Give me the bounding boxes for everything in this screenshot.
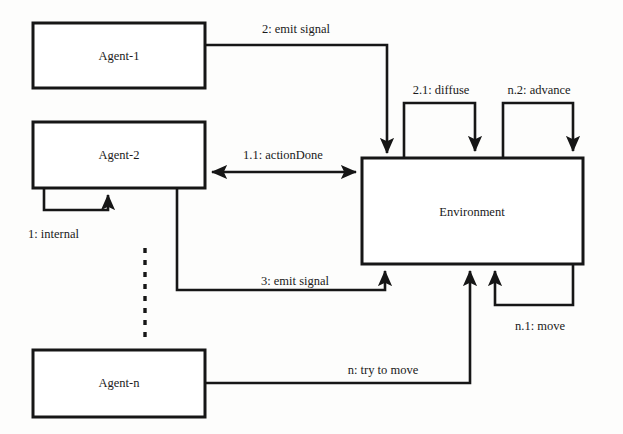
edge-label-diffuse: 2.1: diffuse xyxy=(413,83,470,97)
node-environment[interactable]: Environment xyxy=(362,158,583,264)
edge-action-done: 1.1: actionDone xyxy=(212,148,356,172)
edge-label-internal: 1: internal xyxy=(28,227,80,241)
uml-collaboration-diagram: 2: emit signal 1.1: actionDone 1: intern… xyxy=(0,0,623,434)
edge-emit-signal-2: 2: emit signal xyxy=(205,22,387,153)
node-environment-label: Environment xyxy=(439,205,505,219)
edge-try-to-move: n: try to move xyxy=(205,271,470,383)
node-agent-2[interactable]: Agent-2 xyxy=(33,122,205,188)
edge-label-action-done: 1.1: actionDone xyxy=(243,148,323,162)
edge-diffuse-self-loop-line xyxy=(404,103,475,158)
edge-advance-self-loop-line xyxy=(503,103,573,158)
edge-label-emit-signal-3: 3: emit signal xyxy=(261,274,330,288)
edge-try-to-move-line xyxy=(205,271,470,383)
node-agent-1-label: Agent-1 xyxy=(99,49,140,63)
edge-label-emit-signal-2: 2: emit signal xyxy=(262,22,331,36)
edge-internal-self-loop: 1: internal xyxy=(28,188,108,241)
edge-move-self-loop-line xyxy=(495,264,573,305)
edge-internal-self-loop-line xyxy=(44,188,108,210)
edge-emit-signal-2-line xyxy=(205,45,387,153)
edge-label-advance: n.2: advance xyxy=(507,83,571,97)
edge-label-move: n.1: move xyxy=(515,319,565,333)
edge-emit-signal-3: 3: emit signal xyxy=(177,188,385,290)
edge-move-self-loop: n.1: move xyxy=(495,264,573,333)
node-agent-2-label: Agent-2 xyxy=(99,148,140,162)
edge-advance-self-loop: n.2: advance xyxy=(503,83,573,158)
diagram-canvas: 2: emit signal 1.1: actionDone 1: intern… xyxy=(0,0,623,434)
edge-label-try-to-move: n: try to move xyxy=(348,363,419,377)
node-agent-n[interactable]: Agent-n xyxy=(33,350,205,417)
node-agent-n-label: Agent-n xyxy=(99,376,141,390)
edge-diffuse-self-loop: 2.1: diffuse xyxy=(404,83,475,158)
node-agent-1[interactable]: Agent-1 xyxy=(33,23,205,88)
